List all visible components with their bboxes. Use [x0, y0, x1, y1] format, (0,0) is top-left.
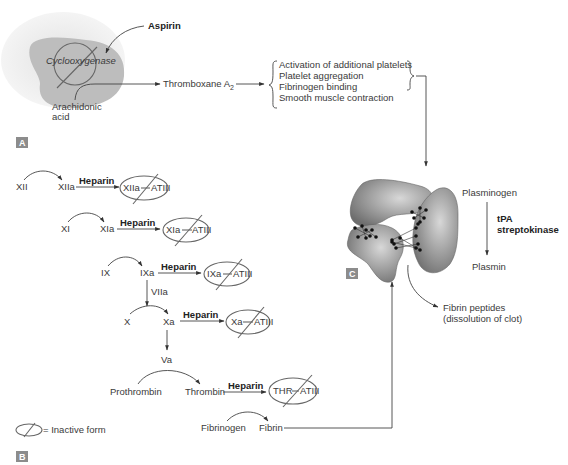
complex-2-right: ATIII — [192, 224, 211, 235]
complex-3-left: IXa — [207, 268, 222, 279]
activation-arrow-x — [130, 306, 168, 314]
activation-arrow-xii — [24, 171, 62, 180]
aspirin-label: Aspirin — [148, 20, 181, 31]
badge-a-label: A — [19, 138, 26, 148]
activation-arrow-fibrinogen — [227, 412, 268, 421]
legend-label: = Inactive form — [43, 424, 106, 435]
badge-b-label: B — [19, 452, 26, 462]
substrate-label-2: acid — [52, 111, 69, 122]
plasmin: Plasmin — [472, 261, 506, 272]
panel-b: XII XIIa Heparin XIIa ATIII XI XIa Hepar… — [16, 171, 392, 462]
fibrin-to-clot-arrow — [284, 282, 392, 428]
cofactor-va: Va — [161, 354, 173, 365]
effect-1: Activation of additional platelets — [279, 59, 412, 70]
fibrinogen: Fibrinogen — [201, 422, 246, 433]
complex-4-right: ATIII — [254, 316, 273, 327]
enzyme-label: Cyclooxygenase — [46, 55, 116, 66]
complex-4-left: Xa — [231, 316, 243, 327]
heparin-label-2: Heparin — [120, 217, 156, 228]
complex-5-left: THR — [273, 385, 293, 396]
peptides-label-1: Fibrin peptides — [443, 302, 506, 313]
activator-streptokinase: streptokinase — [497, 224, 559, 235]
effects-brace — [269, 61, 277, 108]
activation-arrow-prothrombin — [138, 371, 200, 385]
platelet-inner — [29, 38, 124, 108]
platelet-clot — [347, 180, 458, 283]
prothrombin: Prothrombin — [110, 386, 162, 397]
effect-3: Fibrinogen binding — [279, 81, 357, 92]
activator-tpa: tPA — [497, 213, 513, 224]
effect-2: Platelet aggregation — [279, 70, 364, 81]
badge-c-label: C — [349, 269, 356, 279]
heparin-label-4: Heparin — [183, 309, 219, 320]
complex-3-right: ATIII — [233, 268, 252, 279]
legend-strike — [24, 423, 35, 437]
panel-a: Cyclooxygenase Aspirin Arachidonic acid … — [1, 12, 426, 166]
activation-arrow-ix — [108, 257, 142, 266]
factor-xiia: XIIa — [58, 181, 76, 192]
complex-5-right: ATIII — [300, 385, 319, 396]
complex-1-left: XIIa — [123, 182, 141, 193]
factor-x: X — [124, 316, 131, 327]
factor-xi: XI — [61, 223, 70, 234]
plasminogen: Plasminogen — [462, 187, 517, 198]
panel-c: Plasminogen tPA streptokinase Plasmin Fi… — [346, 180, 559, 324]
activation-arrow-xi — [68, 213, 104, 222]
to-clot-arrow — [416, 76, 426, 166]
factor-xa: Xa — [163, 316, 175, 327]
peptides-label-2: (dissolution of clot) — [443, 313, 522, 324]
cofactor-viia: VIIa — [151, 286, 169, 297]
complex-2-left: XIa — [166, 224, 181, 235]
heparin-label-1: Heparin — [79, 175, 115, 186]
thromboxane-label: Thromboxane A2 — [163, 78, 234, 91]
factor-ixa: IXa — [140, 267, 155, 278]
coagulation-diagram: Cyclooxygenase Aspirin Arachidonic acid … — [0, 0, 568, 465]
factor-xii: XII — [16, 181, 28, 192]
fibrin: Fibrin — [259, 422, 283, 433]
factor-ix: IX — [101, 267, 111, 278]
heparin-label-5: Heparin — [228, 380, 264, 391]
effect-4: Smooth muscle contraction — [279, 92, 394, 103]
heparin-label-3: Heparin — [161, 261, 197, 272]
complex-1-right: ATIII — [151, 182, 170, 193]
thrombin: Thrombin — [185, 386, 225, 397]
factor-xia: XIa — [100, 223, 115, 234]
